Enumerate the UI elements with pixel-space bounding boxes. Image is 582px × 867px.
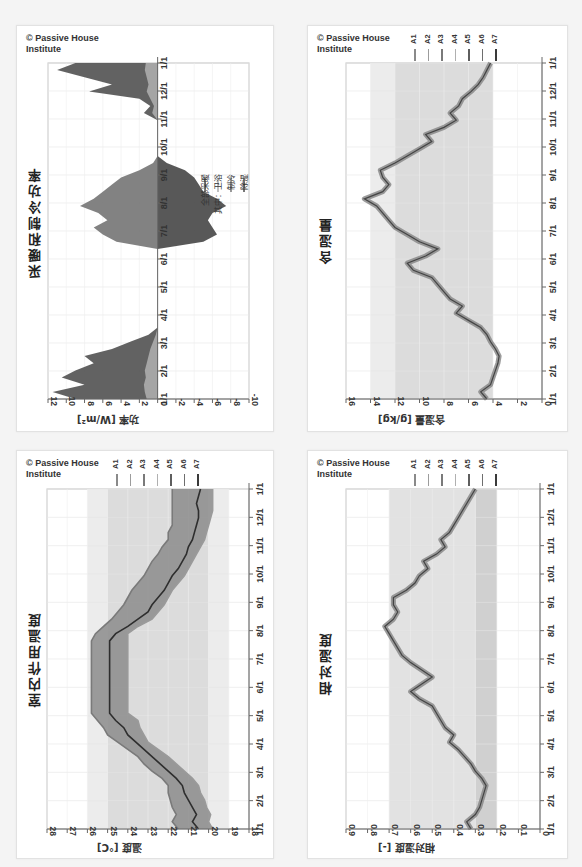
y-tick-label: 0.1 (519, 824, 529, 836)
y-tick-label: 0 (159, 401, 169, 406)
y-tick-label: 12 (49, 397, 59, 407)
y-tick-label: 8 (86, 401, 96, 406)
x-tick-label: 2/1 (159, 365, 169, 378)
x-tick-label: 11/1 (159, 110, 169, 127)
x-tick-label: 3/1 (255, 766, 265, 779)
y-tick-label: 0.4 (455, 824, 465, 836)
x-tick-label: 5/1 (548, 281, 558, 294)
x-tick-label: 3/1 (546, 766, 556, 779)
x-tick-label: 6/1 (548, 253, 558, 266)
y-tick-label: 25 (109, 827, 119, 837)
y-tick-label: 0.2 (498, 824, 508, 836)
y-tick-label: 0.7 (390, 824, 400, 836)
y-tick-label: -4 (195, 398, 205, 406)
y-tick-label: 0 (541, 831, 551, 836)
x-tick-label: 8/1 (255, 624, 265, 637)
chart-plot-temperature: 1/12/13/14/15/16/17/18/19/110/111/112/11… (17, 451, 273, 858)
y-tick-label: 16 (347, 397, 357, 407)
y-tick-label: 12 (396, 397, 406, 407)
legend-label: 制冷 (226, 174, 236, 190)
x-tick-label: 3/1 (159, 337, 169, 350)
x-tick-label: 10/1 (159, 138, 169, 156)
y-tick-label: 21 (189, 827, 199, 837)
y-tick-label: 0.8 (369, 824, 379, 836)
chart-panel-moisture: © Passive HouseInstitute A1A2A3A4A5A6A7 … (307, 25, 568, 432)
chart-plot-moisture: 1/12/13/14/15/16/17/18/19/110/111/112/11… (308, 26, 567, 431)
x-tick-label: 11/1 (255, 537, 265, 554)
y-tick-label: -6 (213, 398, 223, 406)
y-tick-label: 2 (519, 401, 529, 406)
y-tick-label: 6 (470, 401, 480, 406)
x-tick-label: 9/1 (255, 596, 265, 609)
y-tick-label: 14 (372, 397, 382, 407)
y-tick-label: 4 (494, 401, 504, 406)
x-tick-label: 1/1 (548, 57, 558, 70)
x-tick-label: 12/1 (546, 509, 556, 527)
y-tick-label: 23 (149, 827, 159, 837)
y-tick-label: 10 (421, 397, 431, 407)
x-tick-label: 10/1 (548, 138, 558, 156)
x-tick-label: 4/1 (255, 738, 265, 751)
y-tick-label: 0.6 (412, 824, 422, 836)
y-tick-label: 0.3 (476, 824, 486, 836)
y-tick-label: -2 (177, 398, 187, 406)
chart-plot-power: 1/12/13/14/15/16/17/18/19/110/111/112/11… (17, 26, 273, 431)
x-tick-label: 9/1 (548, 169, 558, 182)
x-tick-label: 1/1 (159, 57, 169, 70)
x-tick-label: 7/1 (548, 225, 558, 238)
x-tick-label: 9/1 (546, 596, 556, 609)
x-tick-label: 1/1 (255, 483, 265, 496)
x-tick-label: 1/1 (546, 483, 556, 496)
y-tick-label: 28 (48, 827, 58, 837)
x-tick-label: 10/1 (546, 565, 556, 583)
x-tick-label: 4/1 (548, 309, 558, 322)
x-tick-label: 5/1 (546, 709, 556, 722)
y-tick-label: 18 (250, 827, 260, 837)
chart-panel-rh: © Passive HouseInstitute A1A2A3A4A5A6A7 … (307, 450, 568, 859)
y-axis-label: 相对湿度 [-] (378, 841, 435, 856)
y-tick-label: 26 (88, 827, 98, 837)
y-tick-label: -10 (250, 394, 260, 407)
x-tick-label: 4/1 (546, 738, 556, 751)
y-tick-label: 22 (169, 827, 179, 837)
x-tick-label: 7/1 (546, 653, 556, 666)
y-tick-label: 0 (543, 401, 553, 406)
x-tick-label: 5/1 (255, 709, 265, 722)
x-tick-label: 4/1 (159, 309, 169, 322)
chart-panel-power: © Passive HouseInstitute 采暖和制冷功率 1/12/13… (16, 25, 274, 432)
x-tick-label: 7/1 (159, 225, 169, 238)
y-tick-label: 0.9 (347, 824, 357, 836)
y-tick-label: 0.5 (433, 824, 443, 836)
y-tick-label: 4 (122, 401, 132, 406)
y-tick-label: 8 (445, 401, 455, 406)
y-axis-label: 温度 [°C] (97, 841, 142, 856)
x-tick-label: 10/1 (255, 565, 265, 583)
y-tick-label: 6 (104, 401, 114, 406)
y-tick-label: -8 (232, 398, 242, 406)
legend-label: 除湿 (239, 174, 249, 190)
x-tick-label: 12/1 (548, 82, 558, 100)
x-tick-label: 2/1 (548, 365, 558, 378)
x-tick-label: 2/1 (546, 794, 556, 807)
y-tick-label: 2 (140, 401, 150, 406)
x-tick-label: 8/1 (546, 624, 556, 637)
y-tick-label: 10 (67, 397, 77, 407)
x-tick-label: 12/1 (255, 509, 265, 527)
x-tick-label: 5/1 (159, 281, 169, 294)
x-tick-label: 9/1 (159, 169, 169, 182)
legend-label: 全部采暖 (200, 174, 210, 206)
legend-label: 其中：卫浴 (213, 174, 223, 214)
y-tick-label: 19 (230, 827, 240, 837)
y-tick-label: 27 (68, 827, 78, 837)
x-tick-label: 11/1 (546, 537, 556, 554)
x-tick-label: 6/1 (255, 681, 265, 694)
y-tick-label: 24 (129, 827, 139, 837)
x-tick-label: 8/1 (548, 197, 558, 210)
x-tick-label: 3/1 (548, 337, 558, 350)
chart-plot-rh: 1/12/13/14/15/16/17/18/19/110/111/112/11… (308, 451, 567, 858)
x-tick-label: 6/1 (159, 253, 169, 266)
x-tick-label: 7/1 (255, 653, 265, 666)
x-tick-label: 12/1 (159, 82, 169, 100)
y-tick-label: 20 (210, 827, 220, 837)
y-axis-label: 功率 [W/m²] (77, 413, 139, 428)
